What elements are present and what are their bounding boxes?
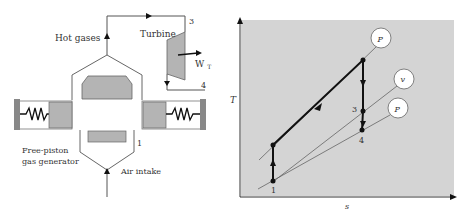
lower-pressure-label: P [394,105,401,114]
state-point-1 [271,179,276,184]
left-spring-icon [20,108,49,120]
hot-gas-arrow-icon [104,33,110,39]
combustion-chamber [82,76,132,99]
work-subscript: T [207,63,211,70]
state-4-label: 4 [201,81,206,90]
work-arrow-icon [196,50,202,56]
state-1-label: 1 [137,139,142,148]
left-cylinder-end [14,99,20,130]
work-label: W T [195,59,211,70]
air-intake-label: Air intake [120,167,161,176]
turbine-exhaust-pipe [167,74,205,90]
work-symbol: W [195,59,205,69]
hot-gases-label: Hot gases [55,33,101,43]
generator-label-line1: Free-piston [22,146,69,155]
state-point-2 [271,143,276,148]
point-1-label: 1 [271,186,276,195]
right-spring-icon [166,108,200,120]
volume-label: v [401,75,406,84]
state-point-top [361,58,366,63]
ts-diagram: T s 1 3 4 P v P [230,17,457,211]
left-piston [49,102,72,128]
scavenge-block [88,131,126,142]
x-axis-label: s [345,202,349,211]
gas-generator-schematic: Hot gases Turbine 3 4 W T 1 Free-piston … [14,13,211,197]
point-3-label: 3 [352,105,357,114]
upper-pressure-label: P [377,35,384,44]
state-3-label: 3 [189,17,194,26]
y-axis-label: T [230,95,237,105]
right-cylinder-end [200,99,206,130]
generator-label-line2: gas generator [22,157,79,166]
flow-arrow-icon [146,13,152,19]
state-point-3 [361,109,366,114]
point-4-label: 4 [359,136,364,145]
diagram-canvas: Hot gases Turbine 3 4 W T 1 Free-piston … [0,0,470,217]
turbine-label: Turbine [140,29,176,39]
exhaust-arrow-icon [164,81,170,86]
state-point-4 [360,128,365,133]
turbine-icon [167,32,185,80]
right-piston [143,102,166,128]
